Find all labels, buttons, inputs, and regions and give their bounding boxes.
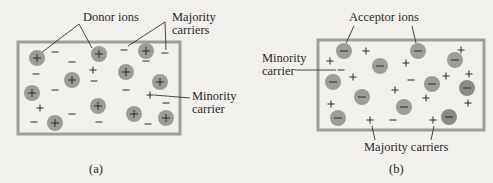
- hole-carrier: [147, 92, 154, 99]
- caption-b: (b): [389, 162, 404, 177]
- label-acceptor-ions: Acceptor ions: [349, 11, 419, 24]
- label-donor-ions: Donor ions: [83, 11, 139, 24]
- label-minority-carrier-b: Minority carrier: [262, 52, 306, 78]
- label-minority-line2: carrier: [192, 103, 236, 116]
- leader-lines-a: [41, 22, 190, 98]
- hole-carrier: [328, 101, 335, 108]
- hole-carrier: [423, 95, 430, 102]
- hole-carrier: [363, 48, 370, 55]
- caption-a: (a): [89, 162, 103, 177]
- hole-carrier: [90, 67, 97, 74]
- hole-carrier: [392, 87, 399, 94]
- hole-carrier: [403, 60, 410, 67]
- hole-carrier: [350, 74, 357, 81]
- hole-carrier: [37, 105, 44, 112]
- diagram-canvas: [0, 0, 493, 183]
- hole-carrier: [458, 47, 465, 54]
- label-majority-carriers-a: Majority carriers: [172, 11, 216, 37]
- acceptor-ions-b: [325, 43, 475, 126]
- hole-carrier: [465, 100, 472, 107]
- donor-ions-a: [24, 43, 174, 131]
- hole-carrier: [466, 71, 473, 78]
- label-majority-line2: carriers: [172, 24, 216, 37]
- leader-lines-b: [295, 26, 434, 140]
- hole-carrier: [327, 58, 334, 65]
- hole-carrier: [443, 73, 450, 80]
- label-majority-carriers-b: Majority carriers: [364, 141, 448, 154]
- label-minority-line2-b: carrier: [262, 65, 306, 78]
- label-minority-carrier-a: Minority carrier: [192, 90, 236, 116]
- hole-carrier: [367, 117, 374, 124]
- hole-carrier: [430, 117, 437, 124]
